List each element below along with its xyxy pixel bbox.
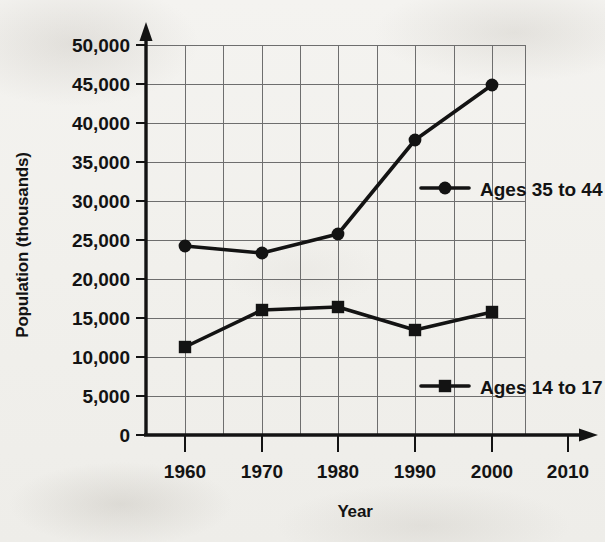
data-point-1980-ages-14-to-17: [332, 301, 344, 313]
y-tick-label-10000: 10,000: [72, 347, 130, 368]
x-tick-label-2000: 2000: [471, 461, 513, 482]
axis-lines: [144, 36, 586, 435]
x-tick-label-1990: 1990: [394, 461, 436, 482]
y-tick-label-25000: 25,000: [72, 230, 130, 251]
y-tick-label-45000: 45,000: [72, 74, 130, 95]
y-tick-label-5000: 5,000: [82, 386, 130, 407]
y-tick-label-20000: 20,000: [72, 269, 130, 290]
data-point-1960-ages-14-to-17: [179, 341, 191, 353]
y-tick-label-50000: 50,000: [72, 35, 130, 56]
legend-entry-ages-14-to-17[interactable]: Ages 14 to 17: [421, 377, 603, 398]
x-tick-label-1970: 1970: [241, 461, 283, 482]
x-tick-label-1980: 1980: [317, 461, 359, 482]
legend-label-ages-14-to-17: Ages 14 to 17: [480, 377, 603, 398]
y-axis-title: Population (thousands): [13, 152, 32, 337]
grid-lines-horizontal: [145, 45, 525, 396]
legend: Ages 35 to 44 Ages 14 to 17: [421, 179, 603, 398]
y-axis-arrowhead: [140, 22, 153, 41]
chart-svg: 50,000 45,000 40,000 35,000 30,000 25,00…: [0, 0, 605, 542]
y-tick-label-0: 0: [119, 425, 130, 446]
data-point-1990-ages-35-to-44: [409, 134, 422, 147]
y-tick-label-15000: 15,000: [72, 308, 130, 329]
data-point-1980-ages-35-to-44: [332, 228, 345, 241]
x-tick-labels: 1960 1970 1980 1990 2000 2010: [164, 461, 589, 482]
y-tick-label-30000: 30,000: [72, 191, 130, 212]
legend-entry-ages-35-to-44[interactable]: Ages 35 to 44: [421, 179, 603, 200]
x-tick-label-1960: 1960: [164, 461, 206, 482]
y-tick-labels: 50,000 45,000 40,000 35,000 30,000 25,00…: [72, 35, 130, 446]
x-tick-label-2010: 2010: [547, 461, 589, 482]
circle-marker-icon: [439, 182, 452, 195]
x-axis-title: Year: [337, 502, 373, 521]
data-point-2000-ages-14-to-17: [486, 306, 498, 318]
y-tick-label-35000: 35,000: [72, 152, 130, 173]
data-point-1970-ages-14-to-17: [256, 304, 268, 316]
x-axis-ticks: [185, 435, 568, 452]
y-tick-label-40000: 40,000: [72, 113, 130, 134]
line-chart: 50,000 45,000 40,000 35,000 30,000 25,00…: [0, 0, 605, 542]
data-point-1990-ages-14-to-17: [409, 324, 421, 336]
data-point-1960-ages-35-to-44: [179, 240, 192, 253]
data-point-2000-ages-35-to-44: [486, 79, 499, 92]
legend-label-ages-35-to-44: Ages 35 to 44: [480, 179, 603, 200]
data-point-1970-ages-35-to-44: [256, 247, 269, 260]
x-axis-arrowhead: [579, 429, 598, 442]
square-marker-icon: [439, 380, 451, 392]
